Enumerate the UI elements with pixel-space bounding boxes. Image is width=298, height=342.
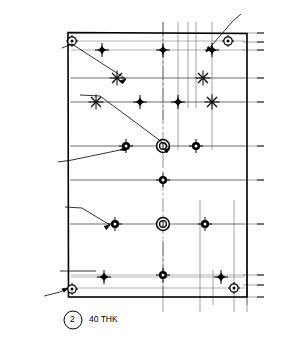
detail-balloon-layer bbox=[0, 0, 298, 342]
engineering-drawing-sheet: 2 40 THK bbox=[0, 0, 298, 342]
detail-balloon-circle bbox=[64, 311, 82, 329]
